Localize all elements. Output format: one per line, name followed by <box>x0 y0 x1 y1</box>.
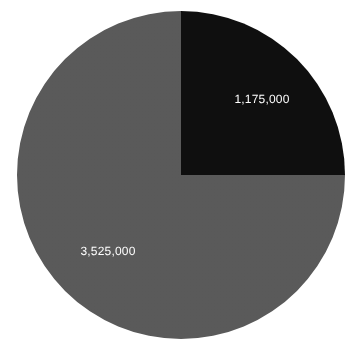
pie-chart: 1,175,000 3,525,000 <box>0 0 363 350</box>
pie-slice-label-1175000: 1,175,000 <box>234 93 289 106</box>
pie-chart-canvas <box>0 0 363 350</box>
pie-slice-label-3525000: 3,525,000 <box>80 245 135 258</box>
